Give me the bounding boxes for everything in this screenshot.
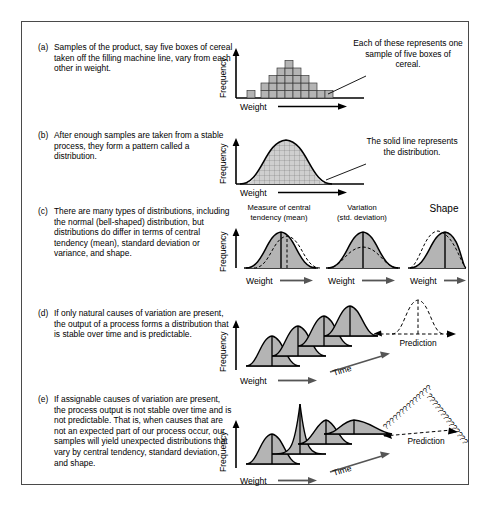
panel-b-body: After enough samples are taken from a st… <box>54 130 234 162</box>
panel-b-ylabel: Frequency <box>218 143 228 184</box>
panel-e-prediction: ?????????????? ?????????????? Prediction <box>381 383 470 447</box>
panel-d-text: (d) If only natural causes of variation … <box>38 308 234 340</box>
panel-a-chart: Frequency Weight <box>214 32 374 112</box>
panel-d-ylabel: Frequency <box>218 331 228 372</box>
panel-d-curves <box>246 306 378 366</box>
panel-a-xlabel: Weight <box>240 102 267 112</box>
bell-curve-fill <box>244 140 328 184</box>
figure-frame: (a) Samples of the product, say five box… <box>21 21 469 485</box>
subchart-shape-xlabel: Weight <box>410 276 437 286</box>
panel-b-text: (b) After enough samples are taken from … <box>38 130 234 162</box>
panel-d-time-axis: Time <box>330 352 390 378</box>
panel-e-text: (e) If assignable causes of variation ar… <box>38 394 234 468</box>
panel-e-body: If assignable causes of variation are pr… <box>54 394 234 468</box>
panel-e-ylabel: Frequency <box>218 431 228 472</box>
panel-a-body: Samples of the product, say five boxes o… <box>54 42 234 74</box>
panel-a-label: (a) <box>38 42 54 53</box>
panel-e-time-axis: Time <box>330 452 390 478</box>
subchart-shape-title: Shape <box>430 203 459 214</box>
panel-c-subchart-variation: Variation (std. deviation) Weight <box>326 203 400 286</box>
panel-b-chart: Frequency Weight <box>214 120 374 198</box>
panel-c-label: (c) <box>38 206 54 217</box>
panel-d-prediction-label: Prediction <box>399 338 437 348</box>
panel-e: (e) If assignable causes of variation ar… <box>22 392 468 488</box>
panel-d-label: (d) <box>38 308 54 319</box>
histogram-blocks <box>247 61 333 99</box>
panel-e-weight-axis: Weight <box>240 476 317 486</box>
panel-e-time-label: Time <box>332 463 353 478</box>
panel-b: (b) After enough samples are taken from … <box>22 118 468 196</box>
panel-c-text: (c) There are many types of distribution… <box>38 206 234 259</box>
subchart-variation-title-1: Variation <box>347 203 376 212</box>
panel-d-xlabel: Weight <box>240 376 267 386</box>
panel-d-weight-axis: Weight <box>240 376 317 386</box>
subchart-mean-xlabel: Weight <box>246 276 273 286</box>
panel-b-xlabel: Weight <box>240 188 267 198</box>
subchart-variation-title-2: (std. deviation) <box>337 213 387 222</box>
panel-a-ylabel: Frequency <box>218 57 228 98</box>
panel-b-annotation: The solid line represents the distributi… <box>360 136 464 157</box>
panel-d-chart: Frequency <box>214 294 466 388</box>
panel-e-chart: Frequency <box>214 392 466 488</box>
panel-c: (c) There are many types of distribution… <box>22 198 468 290</box>
panel-a: (a) Samples of the product, say five box… <box>22 30 468 114</box>
panel-e-curves <box>246 404 392 464</box>
panel-a-annotation: Each of these represents one sample of f… <box>352 38 464 70</box>
panel-d-time-label: Time <box>332 363 353 378</box>
subchart-variation-xlabel: Weight <box>328 276 355 286</box>
panel-d-body: If only natural causes of variation are … <box>54 308 234 340</box>
panel-e-question-marks: ?????????????? <box>381 383 434 432</box>
panel-b-label: (b) <box>38 130 54 141</box>
panel-e-label: (e) <box>38 394 54 405</box>
panel-c-subchart-mean: Measure of central tendency (mean) Weigh… <box>244 203 320 286</box>
panel-e-prediction-label: Prediction <box>407 436 445 446</box>
panel-d: (d) If only natural causes of variation … <box>22 294 468 388</box>
panel-a-text: (a) Samples of the product, say five box… <box>38 42 234 74</box>
panel-c-ylabel: Frequency <box>218 231 228 272</box>
subchart-mean-title-1: Measure of central <box>248 203 311 212</box>
panel-e-xlabel: Weight <box>240 476 267 486</box>
panel-c-chart: Frequency Measure of central tendency (m… <box>214 198 466 290</box>
panel-d-prediction: Prediction <box>374 300 456 348</box>
panel-c-body: There are many types of distributions, i… <box>54 206 234 259</box>
subchart-mean-title-2: tendency (mean) <box>251 213 308 222</box>
panel-c-subchart-shape: Shape Weight <box>408 203 466 286</box>
